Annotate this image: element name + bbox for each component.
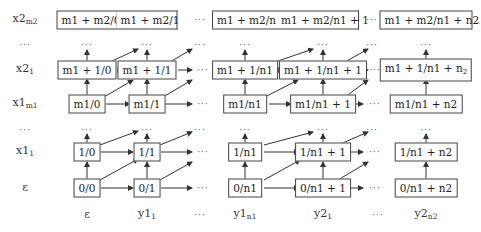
node-x21-n1: m1 + 1/n1 [212,61,278,80]
dots-top: ··· [194,15,206,25]
node-x21-n1-plus-1: m1 + 1/n1 + 1 [279,61,367,80]
row-label-dots: ··· [19,40,31,50]
dots: ··· [366,125,378,135]
node-x1m1-1: m1/1 [129,95,166,114]
node-eps-n1: 0/n1 [228,179,262,198]
col-label-y11: y11 [138,208,156,223]
dots: ··· [369,183,381,193]
dots: ··· [197,147,209,157]
dots-top-2: ··· [366,15,378,25]
dots: ··· [317,125,329,135]
col-label-epsilon: ε [84,209,90,221]
node-x1m1-n1-plus-n2: m1/n1 + n2 [390,95,463,114]
row-label-epsilon: ε [22,182,28,194]
dots: ··· [239,125,251,135]
dots: ··· [366,40,378,50]
node-eps-n1-plus-1: 0/n1 + 1 [295,179,351,198]
dots: ··· [197,65,209,75]
node-eps-0: 0/0 [74,179,101,198]
col-label-y1n1: y1n1 [234,208,257,223]
node-top-n1-plus-n2: m1 + m2/n1 + n2 [380,11,473,30]
dots: ··· [81,40,93,50]
node-top-n1-plus-1: m1 + m2/n1 + 1 [277,11,359,30]
dots: ··· [141,40,153,50]
row-label-x11: x11 [16,145,34,160]
col-label-dots: ··· [194,210,206,220]
node-top-0: m1 + m2/0 [57,11,118,30]
node-x21-0: m1 + 1/0 [57,61,116,80]
node-x11-n1: 1/n1 [228,143,262,162]
col-label-y2n2: y2n2 [415,208,438,223]
dots: ··· [420,40,432,50]
node-eps-n1-plus-n2: 0/n1 + n2 [395,179,458,198]
node-x1m1-n1-plus-1: m1/n1 + 1 [290,95,356,114]
dots: ··· [194,40,206,50]
dots: ··· [81,125,93,135]
node-x1m1-n1: m1/n1 [223,95,267,114]
row-label-dots-2: ··· [19,125,31,135]
row-label-x21: x21 [16,63,34,78]
row-label-x1m1: x1m1 [12,97,37,112]
dots: ··· [197,183,209,193]
dots: ··· [317,40,329,50]
node-top-1: m1 + m2/1 [117,11,178,30]
node-x21-n1-plus-n2: m1 + 1/n1 + n2 [380,59,472,82]
node-x11-n1-plus-n2: 1/n1 + n2 [395,143,458,162]
row-label-x2m2: x2m2 [12,13,37,28]
node-x1m1-0: m1/0 [69,95,106,114]
dots: ··· [420,125,432,135]
node-x11-n1-plus-1: 1/n1 + 1 [295,143,351,162]
dots: ··· [141,125,153,135]
node-x11-0: 1/0 [74,143,101,162]
col-label-dots-2: ··· [372,210,384,220]
lattice-diagram: x2m2 ··· x21 x1m1 ··· x11 ε ε y11 ··· y1… [0,0,481,232]
node-eps-1: 0/1 [134,179,161,198]
node-x21-1: m1 + 1/1 [117,61,176,80]
dots: ··· [197,99,209,109]
dots: ··· [369,147,381,157]
dots: ··· [194,125,206,135]
dots: ··· [239,40,251,50]
node-top-n1: m1 + m2/n1 [212,11,278,30]
dots: ··· [369,99,381,109]
node-x11-1: 1/1 [134,143,161,162]
col-label-y21: y21 [314,208,332,223]
